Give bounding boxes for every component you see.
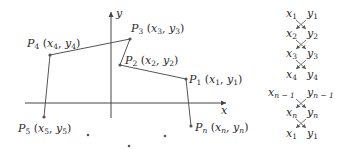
scheme-y3: y3 [306, 47, 318, 61]
scheme-x2: x2 [286, 27, 297, 41]
scheme-x3: x3 [286, 47, 297, 61]
scheme-y1: y1 [306, 7, 318, 21]
vertex-p3 [128, 37, 131, 40]
polygon-diagram: x y P1 (x1, y1) P2 (x2, y2) P3 (x3, y3) … [0, 0, 347, 149]
vertex-p4 [48, 53, 51, 56]
cross-arrows [296, 20, 306, 128]
label-p4: P4 (x4, y4) [26, 37, 80, 51]
scheme-xn: xn [286, 106, 297, 120]
ellipsis-dot [128, 145, 131, 148]
label-p5: P5 (x5, y5) [17, 122, 71, 136]
scheme-y1-repeat: y1 [306, 127, 318, 141]
scheme-yn-1: yn − 1 [306, 86, 334, 100]
vertex-labels: P1 (x1, y1) P2 (x2, y2) P3 (x3, y3) P4 (… [17, 22, 248, 136]
label-p1: P1 (x1, y1) [188, 73, 242, 87]
x-axis-label: x [221, 104, 228, 117]
scheme-y4: y4 [306, 68, 318, 82]
scheme-x1: x1 [286, 7, 297, 21]
vertex-p5 [42, 115, 45, 118]
scheme-x1-repeat: x1 [286, 127, 297, 141]
scheme-xn-1: xn − 1 [268, 86, 295, 100]
scheme-x4: x4 [286, 68, 297, 82]
scheme-yn: yn [306, 106, 318, 120]
y-axis-label: y [115, 7, 123, 20]
polygon-edges [44, 39, 191, 126]
label-pn: Pn (xn, yn) [194, 121, 248, 135]
vertex-pn [189, 124, 192, 127]
label-p3: P3 (x3, y3) [130, 22, 184, 36]
scheme-y2: y2 [306, 27, 318, 41]
polygon-outline [44, 39, 191, 126]
ellipsis-dot [164, 135, 167, 138]
label-p2: P2 (x2, y2) [124, 54, 178, 68]
vertex-p1 [184, 77, 187, 80]
shoelace-scheme: x1 y1 x2 y2 x3 y3 x4 y4 xn − 1 yn − 1 xn… [268, 7, 334, 141]
vertex-p2 [118, 63, 121, 66]
ellipsis-dot [87, 134, 90, 137]
